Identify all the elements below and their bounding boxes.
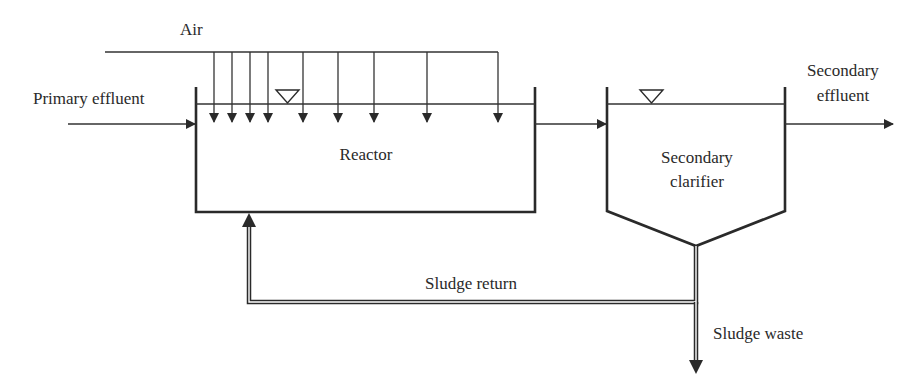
sludge-waste-label: Sludge waste xyxy=(713,324,803,343)
reactor-label: Reactor xyxy=(340,145,393,164)
process-flow-diagram: Air Primary effluent Reactor Secondary c… xyxy=(0,0,920,391)
reactor-tank: Reactor xyxy=(196,87,535,212)
air-label: Air xyxy=(180,20,203,39)
clarifier-label-line2: clarifier xyxy=(670,172,724,191)
primary-effluent-inlet: Primary effluent xyxy=(33,89,195,124)
air-diffuser-arrows xyxy=(214,52,498,122)
sludge-return-line: Sludge return xyxy=(242,213,696,302)
secondary-clarifier: Secondary clarifier xyxy=(607,87,785,246)
water-level-triangle-icon xyxy=(640,90,663,103)
clarifier-label-line1: Secondary xyxy=(661,148,733,167)
sludge-waste-arrow-icon xyxy=(689,360,703,374)
primary-effluent-label: Primary effluent xyxy=(33,89,145,108)
water-level-triangle-icon xyxy=(276,90,299,103)
sludge-return-arrow-icon xyxy=(242,213,256,227)
secondary-effluent-label-line1: Secondary xyxy=(807,61,879,80)
sludge-return-label: Sludge return xyxy=(425,274,518,293)
air-supply: Air xyxy=(105,20,498,52)
sludge-waste-line: Sludge waste xyxy=(689,302,803,374)
secondary-effluent-label-line2: effluent xyxy=(817,86,870,105)
secondary-effluent-outlet: Secondary effluent xyxy=(785,61,893,124)
